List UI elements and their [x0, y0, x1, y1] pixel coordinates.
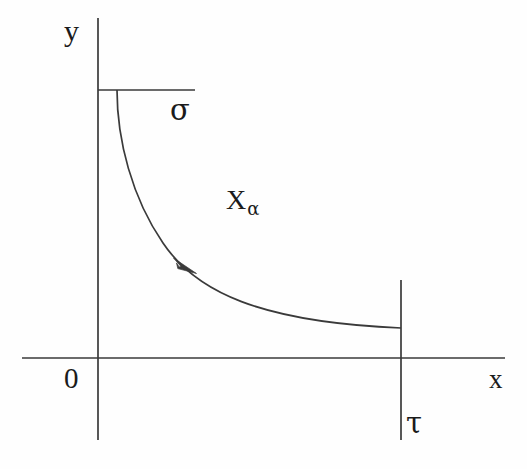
curve-label-subscript: α	[247, 198, 259, 219]
figure-canvas	[0, 0, 527, 469]
y-axis-label: y	[64, 16, 79, 46]
math-figure: y x 0 σ τ Xα	[0, 0, 527, 469]
curve-label-base: X	[226, 184, 246, 215]
tau-label: τ	[406, 409, 422, 438]
curve-label: Xα	[226, 186, 259, 218]
x-axis-label: x	[489, 366, 503, 393]
sigma-label: σ	[170, 96, 190, 125]
origin-label: 0	[64, 364, 79, 393]
direction-arrowhead	[174, 258, 197, 274]
